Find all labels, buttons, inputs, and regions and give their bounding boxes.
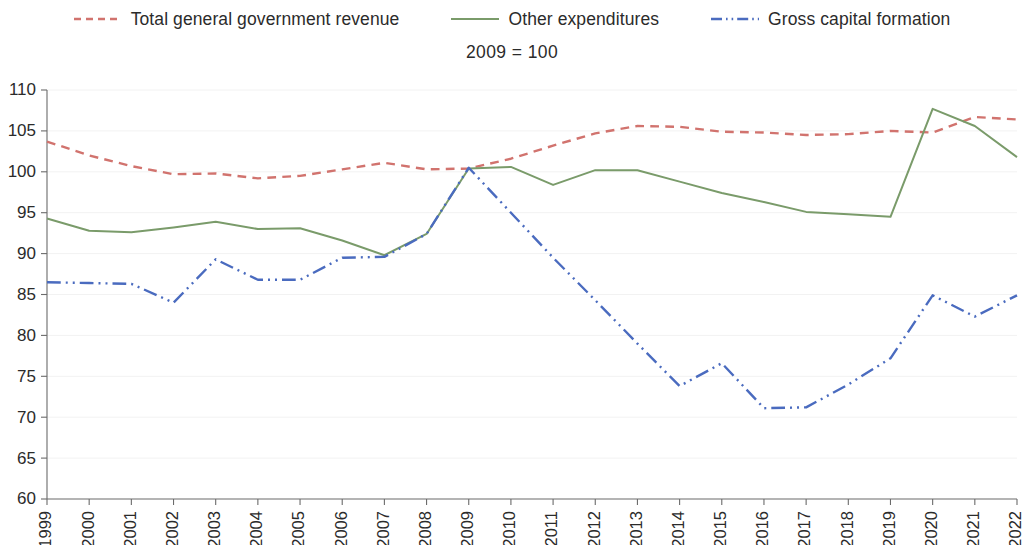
x-axis-tick-label: 2003	[205, 511, 223, 545]
x-axis-tick-label: 2014	[669, 511, 687, 545]
x-axis-tick-label: 2007	[374, 511, 392, 545]
plot-area: 6065707580859095100105110 19992000200120…	[0, 0, 1024, 545]
x-axis-tick-label: 2015	[711, 511, 729, 545]
y-axis-tick-label: 80	[17, 326, 36, 345]
y-axis-tick-label: 75	[17, 367, 36, 386]
series-line-total-general-government-revenue	[47, 117, 1017, 178]
x-axis-tick-label: 2020	[922, 511, 940, 545]
x-axis-tick-label: 2005	[289, 511, 307, 545]
x-axis-tick-label: 2004	[247, 511, 265, 545]
x-axis-tick-label: 2022	[1006, 511, 1024, 545]
x-axis-tick-label: 2011	[542, 511, 560, 545]
series-line-gross-capital-formation	[47, 168, 1017, 408]
x-axis-tick-label: 2006	[332, 511, 350, 545]
y-axis-tick-label: 110	[9, 80, 36, 99]
y-axis-tick-label: 60	[17, 489, 36, 508]
x-axis-tick-label: 2002	[163, 511, 181, 545]
x-axis-tick-label: 1999	[36, 511, 54, 545]
x-axis: 1999200020012002200320042005200620072008…	[36, 499, 1024, 545]
y-axis-tick-label: 105	[8, 121, 36, 140]
x-axis-tick-label: 2008	[416, 511, 434, 545]
y-axis-tick-label: 90	[17, 244, 36, 263]
x-axis-tick-label: 2018	[838, 511, 856, 545]
x-axis-tick-label: 2013	[627, 511, 645, 545]
y-axis-tick-label: 85	[17, 285, 36, 304]
x-axis-tick-label: 2012	[585, 511, 603, 545]
x-axis-tick-label: 2000	[79, 511, 97, 545]
y-axis-tick-label: 65	[17, 449, 36, 468]
chart-container: Total general government revenue Other e…	[0, 0, 1024, 545]
x-axis-tick-label: 2017	[795, 511, 813, 545]
gridlines	[47, 90, 1017, 458]
plot-svg: 6065707580859095100105110 19992000200120…	[0, 0, 1024, 545]
y-axis-tick-label: 70	[17, 408, 36, 427]
x-axis-tick-label: 2016	[753, 511, 771, 545]
series-group	[47, 109, 1017, 408]
y-axis-tick-label: 100	[8, 162, 36, 181]
x-axis-tick-label: 2021	[964, 511, 982, 545]
x-axis-tick-label: 2019	[880, 511, 898, 545]
x-axis-tick-label: 2009	[458, 511, 476, 545]
x-axis-tick-label: 2010	[500, 511, 518, 545]
x-axis-tick-label: 2001	[121, 511, 139, 545]
y-axis: 6065707580859095100105110	[8, 80, 47, 508]
y-axis-tick-label: 95	[17, 203, 36, 222]
